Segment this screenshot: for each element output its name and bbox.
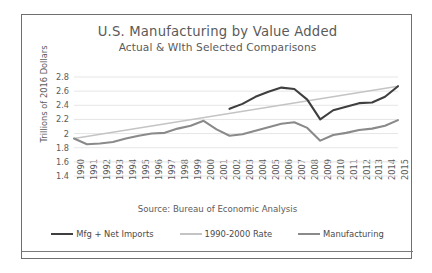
legend-label: Mfg + Net Imports: [76, 229, 153, 239]
series-line: [74, 86, 398, 138]
source-note: Source: Bureau of Economic Analysis: [22, 204, 413, 214]
legend-divider: [22, 251, 413, 252]
legend-label: Manufacturing: [323, 229, 384, 239]
plot-area: [22, 15, 413, 260]
legend-swatch: [298, 233, 320, 235]
legend-item[interactable]: Mfg + Net Imports: [51, 229, 153, 239]
chart-figure: U.S. Manufacturing by Value Added Actual…: [21, 14, 412, 259]
legend-swatch: [180, 233, 202, 235]
legend-swatch: [51, 233, 73, 235]
legend-item[interactable]: Manufacturing: [298, 229, 384, 239]
series-lines: [74, 86, 398, 144]
series-line: [74, 120, 398, 144]
legend-label: 1990-2000 Rate: [205, 229, 273, 239]
gridlines: [74, 77, 398, 176]
legend-item[interactable]: 1990-2000 Rate: [180, 229, 273, 239]
chart-legend: Mfg + Net Imports1990-2000 RateManufactu…: [22, 229, 413, 239]
